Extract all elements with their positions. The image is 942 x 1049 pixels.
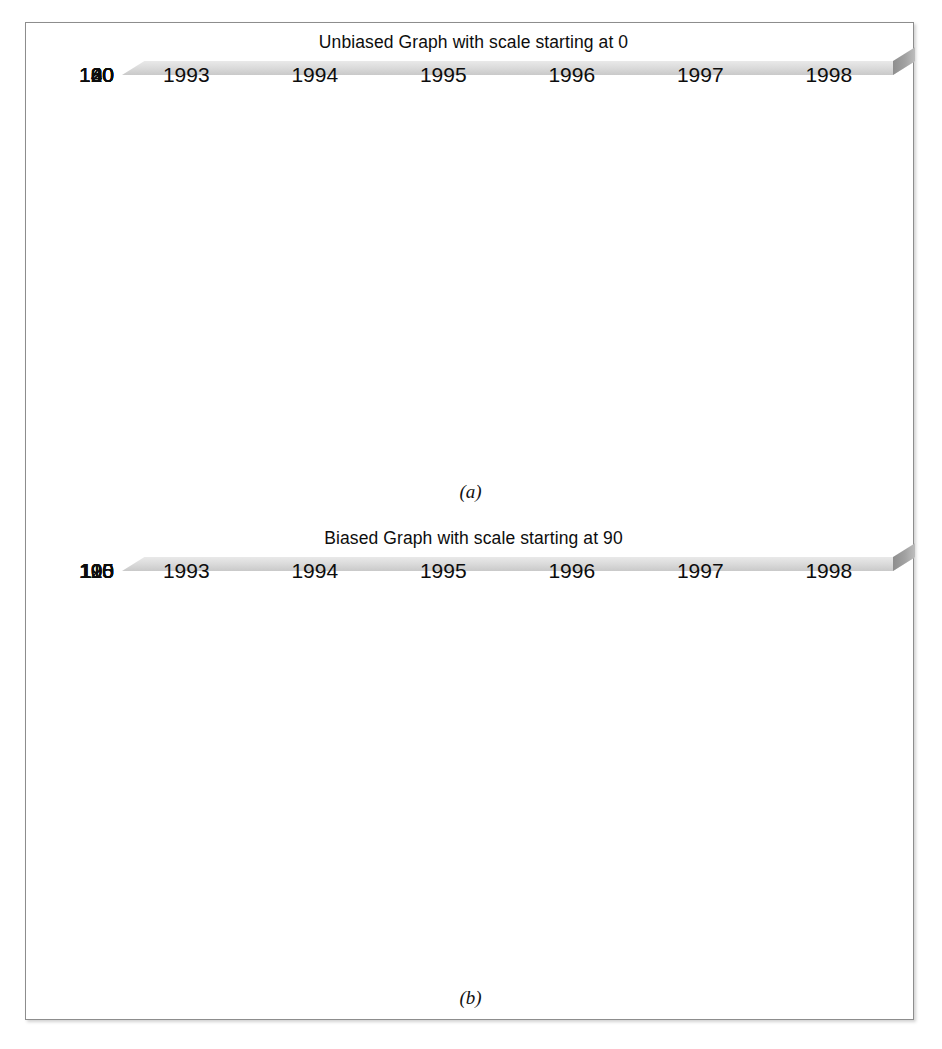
x-axis-tick-label: 1998: [805, 63, 852, 87]
x-axis-tick-label: 1995: [420, 559, 467, 583]
y-axis-tick-label: 120: [79, 559, 114, 583]
x-axis-tick-label: 1994: [291, 63, 338, 87]
chart-b-x-axis: 199319941995199619971998: [122, 557, 893, 587]
chart-b-title: Biased Graph with scale starting at 90: [32, 525, 915, 551]
chart-a-x-axis: 199319941995199619971998: [122, 61, 893, 91]
x-axis-tick-label: 1998: [805, 559, 852, 583]
x-axis-tick-label: 1996: [548, 63, 595, 87]
chart-a-caption: (a): [26, 481, 915, 503]
chart-block-b: Biased Graph with scale starting at 90 9…: [26, 525, 915, 1017]
x-axis-tick-label: 1993: [163, 559, 210, 583]
x-axis-tick-label: 1993: [163, 63, 210, 87]
chart-block-a: Unbiased Graph with scale starting at 0 …: [26, 29, 915, 507]
x-axis-tick-label: 1996: [548, 559, 595, 583]
chart-a-title: Unbiased Graph with scale starting at 0: [32, 29, 915, 55]
x-axis-tick-label: 1994: [291, 559, 338, 583]
chart-b-caption: (b): [26, 987, 915, 1009]
x-axis-tick-label: 1995: [420, 63, 467, 87]
figure-page-frame: Unbiased Graph with scale starting at 0 …: [25, 22, 914, 1020]
figure-stack: Unbiased Graph with scale starting at 0 …: [26, 23, 913, 1019]
x-axis-tick-label: 1997: [677, 559, 724, 583]
y-axis-tick-label: 140: [79, 63, 114, 87]
x-axis-tick-label: 1997: [677, 63, 724, 87]
